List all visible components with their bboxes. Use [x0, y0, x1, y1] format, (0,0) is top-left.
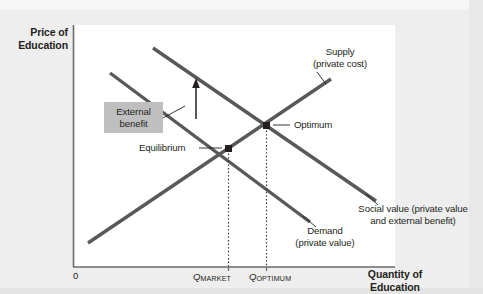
demand-curve-label: Demand (private value) [290, 225, 360, 248]
external-benefit-arrow [192, 78, 200, 119]
optimum-point-marker [263, 122, 270, 129]
equilibrium-point-marker [225, 145, 232, 152]
x-axis-title-line2: Education [370, 281, 420, 293]
supply-label-line1: Supply [326, 46, 355, 57]
xtick-label-qmarket: QMARKET [193, 271, 231, 282]
external-benefit-callout: External benefit [104, 102, 163, 133]
demand-label-line2: (private value) [295, 237, 354, 248]
xtick-label-qoptimum: QOPTIMUM [249, 271, 291, 282]
optimum-point-label: Optimum [294, 119, 332, 130]
social-value-curve-label: Social value (private value and external… [352, 203, 474, 226]
external-benefit-line2: benefit [119, 118, 147, 130]
chart-vector-layer [0, 0, 483, 294]
social-value-label-line2: and external benefit) [370, 215, 455, 226]
external-benefit-leader [163, 106, 185, 118]
qmarket-subscript: MARKET [200, 275, 231, 283]
supply-curve-label: Supply (private cost) [300, 46, 380, 69]
equilibrium-point-label: Equilibrium [139, 142, 185, 153]
social-value-label-line1: Social value (private value [358, 203, 467, 214]
supply-leader [317, 72, 326, 84]
y-axis-title: Price of Education [6, 26, 68, 51]
x-axis-title-line1: Quantity of [368, 268, 422, 280]
x-axis-title: Quantity of Education [352, 268, 438, 293]
figure-canvas: Price of Education Quantity of Education… [0, 0, 483, 294]
external-benefit-line1: External [116, 106, 150, 118]
origin-label: 0 [73, 270, 78, 281]
y-axis-title-line1: Price of [30, 26, 68, 38]
qoptimum-subscript: OPTIMUM [256, 275, 291, 283]
y-axis-title-line2: Education [18, 39, 68, 51]
supply-label-line2: (private cost) [313, 58, 367, 69]
demand-label-line1: Demand [307, 225, 343, 236]
